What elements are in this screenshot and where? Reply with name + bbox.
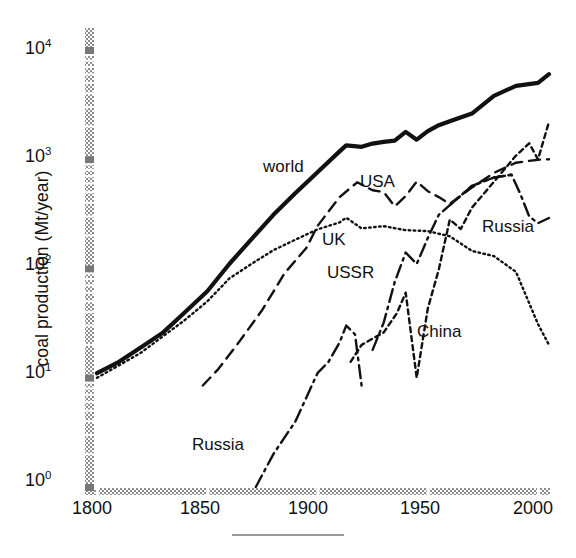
chart-figure: coal production (Mt/year) 104 103 102 10… (0, 0, 576, 558)
series-path-russia (450, 175, 549, 223)
series-path-uk (97, 218, 549, 378)
plot-area (0, 0, 576, 558)
data-curves (97, 74, 549, 487)
series-path-china (351, 122, 549, 378)
series-path-ussr (373, 175, 512, 350)
series-path-usa (203, 159, 549, 385)
axis-lines (85, 28, 550, 495)
series-path-russia (256, 326, 362, 487)
series-path-world (97, 74, 549, 373)
